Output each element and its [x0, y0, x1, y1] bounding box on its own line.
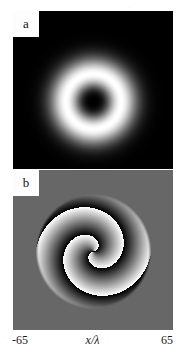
- panel-a-intensity: a: [13, 11, 173, 169]
- axis-title-label: x/λ: [0, 333, 185, 348]
- axis-max-label: 65: [161, 333, 173, 348]
- figure: a b -65 x/λ 65: [0, 0, 185, 361]
- panel-label-b: b: [13, 170, 39, 196]
- axis-label-row: -65 x/λ 65: [0, 333, 185, 355]
- panel-label-a: a: [13, 11, 39, 37]
- panel-b-phase: b: [13, 170, 173, 330]
